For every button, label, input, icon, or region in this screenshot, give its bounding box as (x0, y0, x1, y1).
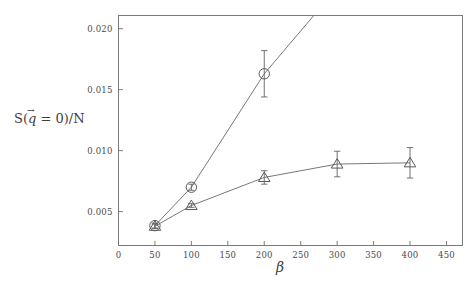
x-tick-label: 250 (281, 250, 321, 260)
plot-frame (119, 16, 463, 246)
y-tick-label: 0.005 (75, 207, 113, 217)
x-axis-label: β (276, 259, 284, 275)
vector-arrow-icon: → (27, 106, 35, 115)
x-tick-label: 200 (244, 250, 284, 260)
x-tick-label: 400 (390, 250, 430, 260)
series-line-circles (155, 16, 314, 226)
y-tick-label: 0.020 (75, 24, 113, 34)
plot-canvas (0, 0, 475, 291)
x-tick-label: 50 (135, 250, 175, 260)
error-bar (261, 51, 267, 97)
x-tick-label: 100 (171, 250, 211, 260)
x-tick-label: 300 (317, 250, 357, 260)
y-tick-label: 0.015 (75, 85, 113, 95)
y-axis-label-suffix: = 0)/N (36, 111, 84, 126)
y-axis-label-prefix: S( (14, 111, 28, 126)
x-tick-label: 350 (354, 250, 394, 260)
q-vector-symbol: →q (28, 111, 36, 126)
y-tick-label: 0.010 (75, 146, 113, 156)
x-tick-label: 150 (208, 250, 248, 260)
y-axis-label: S(→q = 0)/N (14, 111, 85, 126)
series-line-triangles (155, 163, 410, 226)
x-tick-label: 0 (99, 250, 139, 260)
x-tick-label: 450 (426, 250, 466, 260)
plot-figure: S(→q = 0)/N β 05010015020025030035040045… (0, 0, 475, 291)
